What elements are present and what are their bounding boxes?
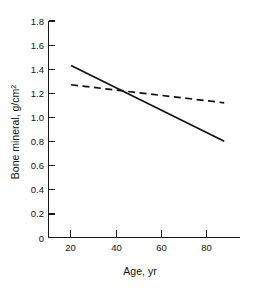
y-tick-label: 1.8: [31, 16, 44, 27]
svg-text:Bone mineral, g/cm2: Bone mineral, g/cm2: [9, 85, 21, 179]
y-axis-title: Bone mineral, g/cm2: [9, 85, 21, 179]
y-tick-label: 1.6: [31, 40, 44, 51]
y-tick-label: 1.2: [31, 88, 44, 99]
chart-figure: 1.8 1.6 1.4 1.2 1.0 0.8 0.6 0.4 0.2 0 20…: [0, 0, 254, 290]
y-tick-label: 0.8: [31, 136, 44, 147]
y-tick-label: 0.2: [31, 208, 44, 219]
x-axis-title: Age, yr: [123, 265, 157, 277]
x-tick-label: 40: [111, 242, 122, 253]
y-tick-label: 0.6: [31, 160, 44, 171]
series-dashed-regression-line: [71, 85, 224, 103]
bone-mineral-vs-age-chart: 1.8 1.6 1.4 1.2 1.0 0.8 0.6 0.4 0.2 0 20…: [0, 0, 254, 290]
y-axis-title-text: Bone mineral, g/cm: [9, 88, 21, 179]
y-tick-label: 0: [39, 233, 44, 244]
x-tick-label: 20: [65, 242, 76, 253]
y-tick-label: 1.4: [31, 64, 44, 75]
x-tick-label: 80: [201, 242, 212, 253]
y-axis-tick-labels: 1.8 1.6 1.4 1.2 1.0 0.8 0.6 0.4 0.2 0: [31, 16, 44, 244]
y-axis-title-superscript: 2: [10, 85, 17, 89]
x-axis-tick-labels: 20 40 60 80: [65, 242, 212, 253]
y-tick-label: 0.4: [31, 184, 44, 195]
series-solid-regression-line: [71, 66, 224, 142]
x-tick-label: 60: [156, 242, 167, 253]
y-axis-ticks: [49, 21, 56, 214]
x-axis-ticks: [71, 230, 207, 238]
y-tick-label: 1.0: [31, 112, 44, 123]
